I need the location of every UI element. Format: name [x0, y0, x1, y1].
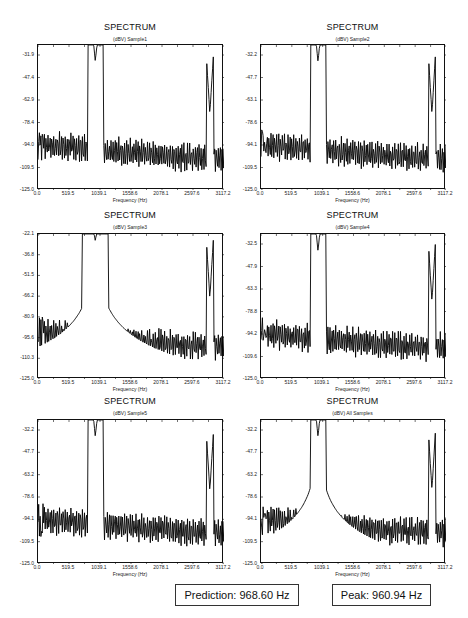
y-tick-label: -109.5: [10, 538, 34, 544]
spectrum-trace: [261, 234, 446, 379]
chart-title: SPECTRUM: [37, 396, 223, 406]
x-tick-label: 1558.6: [115, 564, 145, 570]
y-tick-label: -94.0: [10, 141, 34, 147]
y-tick-label: -63.2: [10, 471, 34, 477]
x-tick-label: 0.0: [245, 190, 275, 196]
chart-title: SPECTRUM: [260, 210, 445, 220]
x-tick-label: 1558.6: [115, 379, 145, 385]
x-tick-label: 1039.1: [307, 564, 337, 570]
y-tick-label: -31.9: [10, 51, 34, 57]
x-tick-label: 519.5: [53, 190, 83, 196]
y-tick-label: -109.5: [233, 538, 257, 544]
y-tick-label: -78.6: [233, 493, 257, 499]
y-tick-label: -78.8: [233, 308, 257, 314]
x-tick-label: 3117.2: [430, 190, 460, 196]
x-axis-label: Frequency (Hz): [37, 386, 223, 392]
y-tick-label: -94.1: [233, 141, 257, 147]
chart-title: SPECTRUM: [37, 22, 223, 32]
spectrum-trace: [261, 45, 446, 190]
x-tick-label: 2597.6: [177, 564, 207, 570]
y-tick-label: -32.2: [233, 426, 257, 432]
y-tick-label: -62.9: [10, 96, 34, 102]
x-tick-label: 519.5: [53, 379, 83, 385]
y-tick-label: -63.1: [233, 96, 257, 102]
chart-title: SPECTRUM: [260, 396, 445, 406]
x-axis-label: Frequency (Hz): [37, 197, 223, 203]
y-tick-label: -109.5: [233, 164, 257, 170]
x-tick-label: 519.5: [53, 564, 83, 570]
spectrum-trace: [38, 234, 224, 379]
chart-title: SPECTRUM: [260, 22, 445, 32]
spectrum-plot: [37, 419, 223, 563]
y-tick-label: -47.7: [10, 448, 34, 454]
x-axis-label: Frequency (Hz): [260, 386, 445, 392]
x-tick-label: 2078.1: [368, 379, 398, 385]
y-tick-label: -80.9: [10, 313, 34, 319]
peak-label: Peak: 960.94 Hz: [341, 589, 422, 601]
y-tick-label: -63.3: [233, 285, 257, 291]
chart-subtitle: (dBV) Sample1: [37, 36, 223, 42]
x-tick-label: 2597.6: [399, 564, 429, 570]
x-tick-label: 3117.2: [430, 379, 460, 385]
y-tick-label: -94.1: [233, 515, 257, 521]
x-tick-label: 2597.6: [399, 190, 429, 196]
x-tick-label: 2597.6: [177, 190, 207, 196]
y-tick-label: -78.6: [10, 493, 34, 499]
x-tick-label: 2597.6: [177, 379, 207, 385]
spectrum-plot: [260, 44, 445, 189]
x-tick-label: 1558.6: [338, 190, 368, 196]
x-tick-label: 1558.6: [338, 564, 368, 570]
x-tick-label: 519.5: [276, 190, 306, 196]
x-tick-label: 519.5: [276, 564, 306, 570]
spectrum-plot: [260, 233, 445, 378]
y-tick-label: -94.2: [233, 330, 257, 336]
y-tick-label: -32.2: [10, 426, 34, 432]
chart-subtitle: (dBV) Sample2: [260, 36, 445, 42]
y-tick-label: -78.4: [10, 119, 34, 125]
x-tick-label: 0.0: [22, 564, 52, 570]
spectrum-plot: [37, 44, 223, 189]
y-tick-label: -78.6: [233, 119, 257, 125]
y-tick-label: -51.5: [10, 271, 34, 277]
peak-box: Peak: 960.94 Hz: [332, 584, 431, 606]
spectrum-plot: [37, 233, 223, 378]
x-tick-label: 2078.1: [368, 564, 398, 570]
x-tick-label: 2078.1: [146, 564, 176, 570]
y-tick-label: -47.7: [233, 74, 257, 80]
x-tick-label: 2078.1: [146, 190, 176, 196]
x-tick-label: 0.0: [245, 379, 275, 385]
y-tick-label: -47.9: [233, 263, 257, 269]
y-tick-label: -63.2: [233, 471, 257, 477]
y-tick-label: -47.7: [233, 448, 257, 454]
y-tick-label: -94.1: [10, 515, 34, 521]
x-tick-label: 1558.6: [338, 379, 368, 385]
x-tick-label: 2597.6: [399, 379, 429, 385]
spectrum-plot: [260, 419, 445, 563]
prediction-label: Prediction: 968.60 Hz: [184, 589, 289, 601]
y-tick-label: -36.8: [10, 251, 34, 257]
x-tick-label: 2078.1: [368, 190, 398, 196]
x-axis-label: Frequency (Hz): [37, 571, 223, 577]
chart-title: SPECTRUM: [37, 210, 223, 220]
y-tick-label: -32.2: [233, 51, 257, 57]
x-tick-label: 2078.1: [146, 379, 176, 385]
chart-subtitle: (dBV) Sample3: [37, 224, 223, 230]
x-tick-label: 0.0: [245, 564, 275, 570]
x-tick-label: 1039.1: [84, 190, 114, 196]
y-tick-label: -110.3: [10, 354, 34, 360]
x-tick-label: 0.0: [22, 379, 52, 385]
y-tick-label: -22.1: [10, 230, 34, 236]
y-tick-label: -109.6: [233, 353, 257, 359]
chart-subtitle: (dBV) Sample4: [260, 224, 445, 230]
x-tick-label: 0.0: [22, 190, 52, 196]
x-tick-label: 519.5: [276, 379, 306, 385]
spectrum-trace: [38, 45, 224, 190]
spectrum-trace: [261, 420, 446, 564]
spectrum-trace: [38, 420, 224, 564]
x-tick-label: 1558.6: [115, 190, 145, 196]
y-tick-label: -109.5: [10, 164, 34, 170]
chart-subtitle: (dBV) Sample5: [37, 410, 223, 416]
x-tick-label: 1039.1: [84, 379, 114, 385]
chart-subtitle: (dBV) All Samples: [260, 410, 445, 416]
y-tick-label: -66.2: [10, 292, 34, 298]
